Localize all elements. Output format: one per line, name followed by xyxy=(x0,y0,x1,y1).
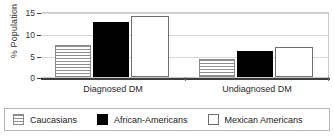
bar-undiagnosed-caucasians xyxy=(199,59,235,77)
legend-item-african-americans: African-Americans xyxy=(97,114,188,125)
category-separator-tick xyxy=(185,77,186,81)
plot-region: 15 10 5 0 xyxy=(41,12,329,78)
y-axis-label: % Population xyxy=(9,0,19,69)
y-tick-label-5: 5 xyxy=(30,52,35,62)
bar-undiagnosed-african-americans xyxy=(237,51,273,77)
hatched-swatch-icon xyxy=(13,114,24,125)
category-label-undiagnosed: Undiagnosed DM xyxy=(222,84,292,94)
black-swatch-icon xyxy=(97,114,108,125)
bar-group-diagnosed xyxy=(55,13,171,77)
y-tick-label-15: 15 xyxy=(26,8,35,18)
bars-container xyxy=(41,13,328,77)
y-tick-label-10: 10 xyxy=(26,30,35,40)
bar-group-undiagnosed xyxy=(199,13,315,77)
legend-label-mexican-americans: Mexican Americans xyxy=(225,115,303,125)
legend-label-caucasians: Caucasians xyxy=(30,115,77,125)
y-tick-0 xyxy=(37,78,41,79)
bar-undiagnosed-mexican-americans xyxy=(275,47,313,77)
y-tick-label-0: 0 xyxy=(30,73,35,83)
legend-item-mexican-americans: Mexican Americans xyxy=(208,114,303,125)
legend-item-caucasians: Caucasians xyxy=(13,114,77,125)
bar-diagnosed-mexican-americans xyxy=(131,16,169,77)
chart-area: % Population 15 10 5 0 xyxy=(0,0,334,104)
category-label-diagnosed: Diagnosed DM xyxy=(83,84,143,94)
white-swatch-icon xyxy=(208,114,219,125)
bar-diagnosed-caucasians xyxy=(55,45,91,78)
bar-chart-figure: % Population 15 10 5 0 xyxy=(0,0,334,136)
category-end-tick xyxy=(328,77,329,81)
bar-diagnosed-african-americans xyxy=(93,22,129,77)
chart-legend: Caucasians African-Americans Mexican Ame… xyxy=(4,108,330,131)
legend-label-african-americans: African-Americans xyxy=(114,115,188,125)
